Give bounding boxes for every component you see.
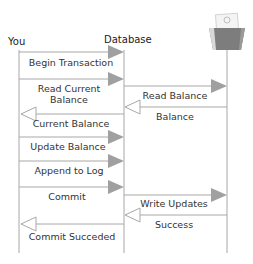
arrowhead-filled-icon	[108, 72, 124, 86]
participant-you-label: You	[7, 36, 25, 47]
participant-database-label: Database	[104, 34, 152, 45]
arrowhead-filled-icon	[108, 154, 124, 168]
svg-text:Commit: Commit	[48, 191, 86, 202]
svg-text:Read Current: Read Current	[38, 83, 101, 94]
file-folder-icon	[209, 13, 245, 50]
message-begin-transaction: Begin Transaction	[19, 45, 124, 68]
arrowhead-filled-icon	[211, 188, 227, 202]
svg-text:Balance: Balance	[156, 111, 194, 122]
message-current-balance: Current Balance	[21, 107, 124, 129]
message-balance: Balance	[125, 100, 227, 122]
svg-text:Begin Transaction: Begin Transaction	[29, 57, 113, 68]
message-update-balance: Update Balance	[19, 130, 124, 152]
svg-text:Success: Success	[155, 219, 193, 230]
svg-text:Read Balance: Read Balance	[143, 90, 208, 101]
svg-text:Update Balance: Update Balance	[30, 141, 105, 152]
message-read-balance: Read Balance	[124, 79, 227, 101]
svg-text:Balance: Balance	[50, 94, 88, 105]
message-read-current-balance: Read Current Balance	[19, 72, 124, 105]
message-append-to-log: Append to Log	[19, 154, 124, 176]
arrowhead-filled-icon	[108, 180, 124, 194]
arrowhead-filled-icon	[211, 79, 227, 93]
svg-text:Write Updates: Write Updates	[140, 198, 208, 209]
arrowhead-open-icon	[21, 217, 36, 231]
sequence-diagram: You Database Begin Transaction Read Curr…	[0, 0, 253, 264]
arrowhead-open-icon	[125, 100, 140, 114]
message-commit: Commit	[19, 180, 124, 202]
arrowhead-open-icon	[125, 208, 140, 222]
arrowhead-filled-icon	[108, 130, 124, 144]
svg-text:Append to Log: Append to Log	[34, 165, 103, 176]
svg-text:Commit Succeded: Commit Succeded	[29, 231, 116, 242]
message-commit-succeded: Commit Succeded	[21, 217, 124, 242]
svg-text:Current Balance: Current Balance	[33, 118, 110, 129]
message-success: Success	[125, 208, 227, 230]
message-write-updates: Write Updates	[124, 188, 227, 209]
